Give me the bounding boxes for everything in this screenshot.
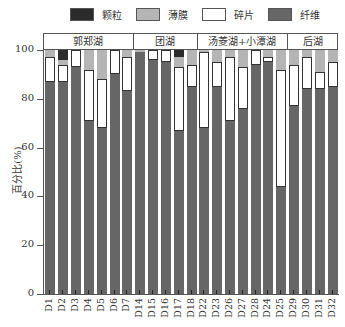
bar-segment-fragment	[58, 65, 68, 82]
bar-segment-fragment	[174, 67, 184, 130]
legend-item-fragment: 碎片	[202, 7, 254, 22]
lake-group-header: 郭郑湖团湖汤菱湖+小潭湖后湖	[43, 33, 338, 50]
bar-segment-film	[315, 50, 325, 72]
bar-D28	[251, 50, 261, 294]
x-tick	[101, 290, 102, 294]
bar-segment-film	[97, 50, 107, 79]
bar-segment-fiber	[161, 62, 171, 294]
bar-segment-film	[58, 60, 68, 65]
bar-segment-fragment	[71, 50, 81, 67]
x-tick-label: D31	[313, 298, 324, 324]
y-tick-label: 100	[4, 43, 34, 54]
x-tick	[178, 290, 179, 294]
bar-segment-fragment	[110, 50, 120, 74]
bar-segment-fiber	[251, 65, 261, 294]
bar-segment-film	[328, 50, 338, 62]
bar-D32	[328, 50, 338, 294]
x-tick-label: D14	[133, 298, 144, 324]
x-tick	[280, 290, 281, 294]
bar-D30	[302, 50, 312, 294]
bar-D1	[45, 50, 55, 294]
bar-segment-fragment	[97, 79, 107, 128]
bar-segment-fiber	[97, 128, 107, 294]
legend-label: 薄膜	[168, 7, 188, 22]
bar-segment-film	[84, 50, 94, 70]
bar-segment-fiber	[58, 82, 68, 294]
group-label: 团湖	[134, 34, 198, 49]
bar-segment-fragment	[225, 57, 235, 120]
bar-D27	[238, 50, 248, 294]
x-tick-label: D25	[274, 298, 285, 324]
x-tick	[255, 290, 256, 294]
x-tick-label: D18	[185, 298, 196, 324]
legend-swatch-particle	[70, 8, 94, 21]
x-tick	[152, 290, 153, 294]
bar-segment-film	[238, 50, 248, 67]
x-tick-label: D1	[43, 298, 54, 324]
plot-area	[43, 50, 339, 295]
bar-segment-fiber	[238, 109, 248, 294]
x-tick-label: D15	[146, 298, 157, 324]
x-tick-label: D28	[249, 298, 260, 324]
x-tick	[165, 290, 166, 294]
bar-D2	[58, 50, 68, 294]
legend-label: 纤维	[300, 7, 320, 22]
bar-D23	[212, 50, 222, 294]
x-tick	[139, 290, 140, 294]
legend-swatch-fragment	[202, 8, 226, 21]
x-tick	[203, 290, 204, 294]
bar-segment-film	[302, 50, 312, 57]
x-tick	[267, 290, 268, 294]
legend-item-fiber: 纤维	[268, 7, 320, 22]
x-tick-label: D32	[326, 298, 337, 324]
bar-segment-film	[45, 50, 55, 57]
x-tick-label: D27	[236, 298, 247, 324]
x-tick-label: D23	[210, 298, 221, 324]
bar-segment-fiber	[289, 106, 299, 294]
bar-segment-fiber	[122, 91, 132, 294]
y-axis-title: 百分比(%)	[9, 146, 24, 193]
x-tick-label: D2	[56, 298, 67, 324]
bar-segment-particle	[174, 50, 184, 57]
x-tick	[191, 290, 192, 294]
bar-segment-fiber	[199, 128, 209, 294]
x-tick	[62, 290, 63, 294]
bar-segment-fiber	[110, 74, 120, 294]
bar-D14	[135, 50, 145, 294]
bar-segment-fragment	[276, 70, 286, 187]
x-tick-label: D30	[300, 298, 311, 324]
x-tick	[114, 290, 115, 294]
bar-D26	[225, 50, 235, 294]
x-tick-label: D3	[69, 298, 80, 324]
bar-segment-fiber	[84, 121, 94, 294]
x-tick-label: D24	[261, 298, 272, 324]
legend-label: 颗粒	[102, 7, 122, 22]
x-tick	[216, 290, 217, 294]
bar-D6	[110, 50, 120, 294]
bar-segment-particle	[58, 50, 68, 60]
bar-segment-fragment	[122, 57, 132, 91]
y-tick-label: 20	[4, 238, 34, 249]
group-label: 后湖	[288, 34, 339, 49]
group-label: 郭郑湖	[44, 34, 134, 49]
bar-segment-fragment	[238, 67, 248, 108]
bar-segment-fragment	[263, 57, 273, 62]
bar-segment-film	[263, 50, 273, 57]
x-tick	[319, 290, 320, 294]
x-tick-label: D17	[172, 298, 183, 324]
legend-item-film: 薄膜	[136, 7, 188, 22]
bar-D16	[161, 50, 171, 294]
x-tick-label: D5	[95, 298, 106, 324]
bar-segment-fiber	[263, 62, 273, 294]
bar-segment-fragment	[328, 62, 338, 86]
x-tick	[126, 290, 127, 294]
x-tick	[229, 290, 230, 294]
bar-segment-fragment	[315, 72, 325, 89]
bar-segment-fragment	[45, 57, 55, 81]
chart-legend: 颗粒薄膜碎片纤维	[70, 6, 334, 22]
bar-segment-fragment	[289, 65, 299, 106]
bar-segment-fiber	[187, 87, 197, 294]
bar-segment-fiber	[71, 67, 81, 294]
x-tick	[88, 290, 89, 294]
bar-segment-fiber	[328, 87, 338, 294]
